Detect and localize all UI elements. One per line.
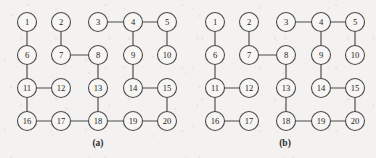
- graph-node: 2: [52, 13, 71, 32]
- graph-node: 1: [18, 13, 37, 32]
- node-label: 20: [163, 116, 171, 126]
- node-layer: 1234567891011121314151617181920: [206, 13, 365, 131]
- graph-node: 10: [346, 46, 365, 65]
- node-label: 1: [25, 17, 29, 27]
- node-label: 3: [284, 17, 288, 27]
- node-label: 8: [284, 50, 288, 60]
- graph-node: 1: [206, 13, 225, 32]
- node-label: 14: [317, 83, 326, 93]
- graph-node: 17: [52, 112, 71, 131]
- graph-node: 3: [277, 13, 296, 32]
- node-label: 18: [94, 116, 102, 126]
- node-label: 15: [351, 83, 359, 93]
- node-label: 16: [23, 116, 32, 126]
- node-label: 13: [94, 83, 102, 93]
- figure-canvas: 1234567891011121314151617181920 (a) 1234…: [0, 0, 376, 158]
- node-label: 17: [245, 116, 254, 126]
- graph-node: 12: [52, 79, 71, 98]
- node-label: 20: [351, 116, 359, 126]
- graph-node: 15: [346, 79, 365, 98]
- graph-node: 16: [18, 112, 37, 131]
- graph-diagram-b: 1234567891011121314151617181920: [188, 0, 376, 158]
- node-label: 13: [282, 83, 290, 93]
- graph-panel-a: 1234567891011121314151617181920 (a): [0, 0, 188, 158]
- graph-node: 18: [89, 112, 108, 131]
- node-label: 3: [96, 17, 100, 27]
- node-label: 18: [282, 116, 290, 126]
- graph-node: 20: [158, 112, 177, 131]
- graph-node: 9: [312, 46, 331, 65]
- graph-node: 14: [312, 79, 331, 98]
- graph-node: 7: [240, 46, 259, 65]
- node-label: 1: [213, 17, 217, 27]
- node-label: 17: [57, 116, 66, 126]
- graph-node: 14: [124, 79, 143, 98]
- graph-node: 11: [206, 79, 225, 98]
- graph-node: 3: [89, 13, 108, 32]
- graph-node: 13: [89, 79, 108, 98]
- node-label: 19: [129, 116, 137, 126]
- graph-node: 16: [206, 112, 225, 131]
- graph-node: 4: [124, 13, 143, 32]
- graph-node: 5: [346, 13, 365, 32]
- node-label: 12: [57, 83, 65, 93]
- node-label: 5: [165, 17, 169, 27]
- graph-diagram-a: 1234567891011121314151617181920: [0, 0, 188, 158]
- graph-node: 9: [124, 46, 143, 65]
- graph-node: 10: [158, 46, 177, 65]
- graph-node: 17: [240, 112, 259, 131]
- graph-node: 15: [158, 79, 177, 98]
- node-layer: 1234567891011121314151617181920: [18, 13, 177, 131]
- graph-panel-b: 1234567891011121314151617181920 (b): [188, 0, 376, 158]
- panel-caption-a: (a): [92, 138, 103, 148]
- node-label: 12: [245, 83, 253, 93]
- graph-node: 19: [312, 112, 331, 131]
- graph-node: 4: [312, 13, 331, 32]
- node-label: 10: [163, 50, 171, 60]
- graph-node: 6: [18, 46, 37, 65]
- graph-node: 19: [124, 112, 143, 131]
- node-label: 2: [247, 17, 251, 27]
- graph-node: 7: [52, 46, 71, 65]
- node-label: 9: [319, 50, 323, 60]
- node-label: 9: [131, 50, 135, 60]
- edge-layer: [27, 22, 167, 121]
- graph-node: 11: [18, 79, 37, 98]
- graph-node: 18: [277, 112, 296, 131]
- node-label: 16: [211, 116, 220, 126]
- node-label: 14: [129, 83, 138, 93]
- panel-caption-b: (b): [279, 138, 291, 148]
- node-label: 5: [353, 17, 357, 27]
- graph-node: 8: [89, 46, 108, 65]
- graph-node: 8: [277, 46, 296, 65]
- node-label: 2: [59, 17, 63, 27]
- edge-layer: [215, 22, 355, 121]
- graph-node: 5: [158, 13, 177, 32]
- graph-node: 12: [240, 79, 259, 98]
- graph-node: 20: [346, 112, 365, 131]
- node-label: 10: [351, 50, 359, 60]
- graph-node: 13: [277, 79, 296, 98]
- node-label: 19: [317, 116, 325, 126]
- node-label: 8: [96, 50, 100, 60]
- graph-node: 2: [240, 13, 259, 32]
- node-label: 11: [211, 83, 219, 93]
- graph-node: 6: [206, 46, 225, 65]
- node-label: 15: [163, 83, 171, 93]
- node-label: 11: [23, 83, 31, 93]
